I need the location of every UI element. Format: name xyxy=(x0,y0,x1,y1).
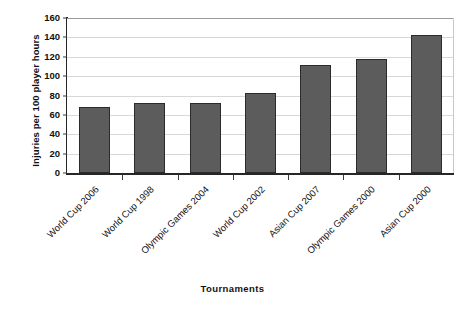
y-axis-tick-mark xyxy=(63,18,67,19)
y-axis-tick-mark xyxy=(63,173,67,174)
y-axis-tick-mark xyxy=(63,153,67,154)
y-axis-tick-mark xyxy=(63,56,67,57)
y-axis-tick-mark xyxy=(63,134,67,135)
y-axis-tick-mark xyxy=(63,114,67,115)
x-axis-tick-labels: World Cup 2006World Cup 1998Olympic Game… xyxy=(0,0,465,318)
x-axis-title: Tournaments xyxy=(0,283,465,294)
bar-chart-figure: Injuries per 100 player hours 0204060801… xyxy=(0,0,465,318)
y-axis-tick-mark xyxy=(63,95,67,96)
y-axis-tick-mark xyxy=(63,37,67,38)
y-axis-tick-mark xyxy=(63,76,67,77)
